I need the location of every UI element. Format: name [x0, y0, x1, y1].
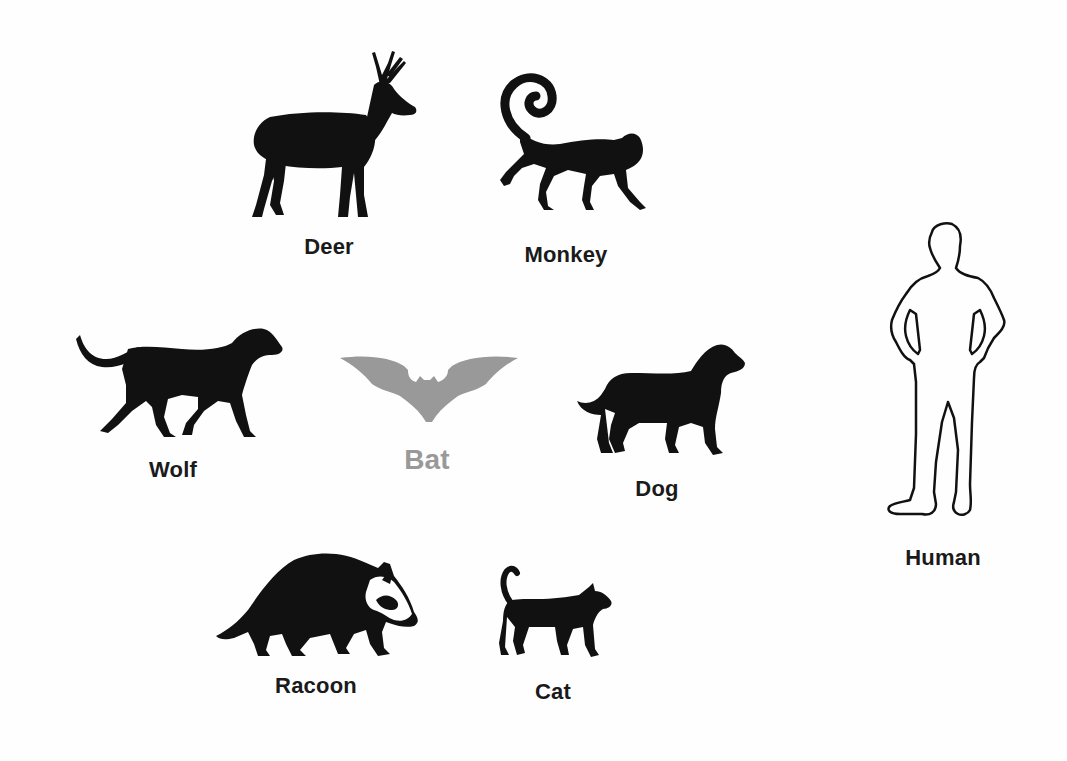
cat-label: Cat — [535, 679, 571, 705]
deer-label: Deer — [304, 234, 354, 260]
bat-icon — [338, 352, 520, 427]
cat-icon — [497, 565, 615, 660]
racoon-figure — [214, 552, 424, 657]
racoon-icon — [214, 552, 424, 657]
deer-figure — [240, 45, 420, 225]
monkey-label: Monkey — [524, 242, 607, 268]
wolf-label: Wolf — [149, 457, 197, 483]
human-figure — [882, 222, 1008, 522]
human-label: Human — [905, 545, 981, 571]
wolf-figure — [72, 325, 287, 445]
dog-icon — [575, 343, 747, 458]
bat-label: Bat — [404, 444, 450, 476]
monkey-figure — [490, 68, 655, 218]
dog-label: Dog — [635, 476, 678, 502]
monkey-icon — [490, 68, 655, 218]
cat-figure — [497, 565, 615, 660]
animal-diagram: Deer Monkey Wolf — [0, 0, 1067, 761]
wolf-icon — [72, 325, 287, 445]
human-icon — [882, 222, 1008, 522]
dog-figure — [575, 343, 747, 458]
bat-figure — [338, 352, 520, 427]
deer-icon — [240, 45, 420, 225]
racoon-label: Racoon — [275, 673, 357, 699]
